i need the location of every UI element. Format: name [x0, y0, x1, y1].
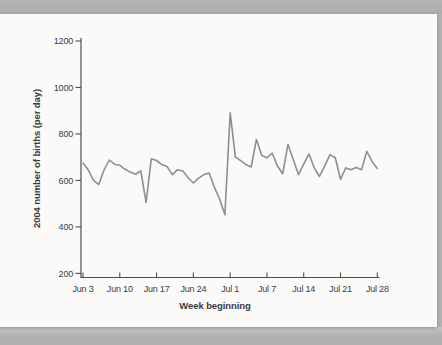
- y-tick-label: 800: [59, 129, 74, 139]
- births-line-series: [83, 113, 377, 215]
- y-tick-label: 1000: [54, 83, 73, 93]
- y-tick-label: 600: [59, 176, 74, 186]
- x-axis-title: Week beginning: [115, 299, 315, 312]
- x-tick-label: Jun 10: [107, 284, 133, 294]
- y-axis-title: 2004 number of births (per day): [30, 39, 43, 279]
- births-line-chart: 20040060080010001200Jun 3Jun 10Jun 17Jun…: [0, 0, 442, 345]
- x-tick-label: Jun 24: [180, 284, 206, 294]
- x-tick-label: Jun 3: [72, 284, 93, 294]
- y-tick-label: 400: [59, 222, 74, 232]
- x-tick-label: Jul 1: [221, 284, 239, 294]
- x-tick-label: Jul 21: [329, 284, 352, 294]
- x-tick-label: Jul 7: [258, 284, 276, 294]
- y-tick-label: 1200: [54, 36, 73, 46]
- x-tick-label: Jul 14: [292, 284, 315, 294]
- x-tick-label: Jun 17: [144, 284, 170, 294]
- y-tick-label: 200: [59, 269, 74, 279]
- x-tick-label: Jul 28: [366, 284, 389, 294]
